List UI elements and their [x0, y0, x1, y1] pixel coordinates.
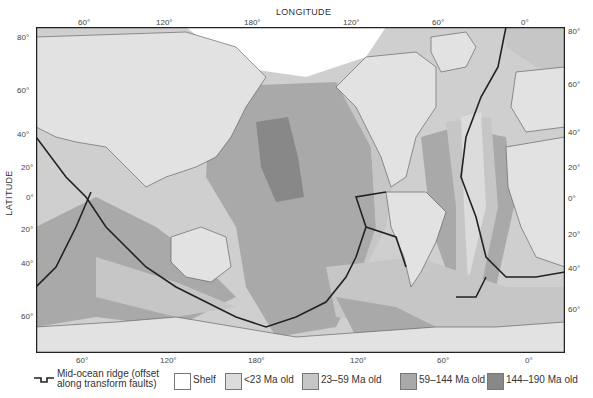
- age-23-59-swatch: [302, 373, 319, 390]
- right-tick: 60°: [568, 80, 580, 89]
- age-59-144-label: 59–144 Ma old: [419, 374, 485, 385]
- shelf-swatch: [174, 373, 191, 390]
- left-tick: 60°: [21, 312, 33, 321]
- age-144-190-swatch: [487, 373, 504, 390]
- top-tick: 60°: [432, 18, 444, 27]
- top-tick: 180°: [244, 18, 261, 27]
- left-tick: 80°: [17, 33, 29, 42]
- right-tick: 40°: [568, 264, 580, 273]
- right-tick: 0°: [568, 194, 576, 203]
- left-tick: 60°: [17, 86, 29, 95]
- age-23-59-label: 23–59 Ma old: [321, 374, 382, 385]
- bottom-tick: 120°: [350, 356, 367, 365]
- top-tick: 120°: [343, 18, 360, 27]
- top-tick: 0°: [521, 18, 529, 27]
- seafloor-age-map: [36, 27, 565, 353]
- ridge-legend-line2: along transform faults): [57, 379, 159, 389]
- left-tick: 20°: [21, 163, 33, 172]
- bottom-tick: 0°: [525, 356, 533, 365]
- age-59-144-swatch: [400, 373, 417, 390]
- ridge-symbol-icon: [34, 376, 54, 384]
- left-tick: 40°: [17, 130, 29, 139]
- ridge-legend-label: Mid-ocean ridge (offset along transform …: [57, 369, 159, 389]
- right-tick: 60°: [568, 305, 580, 314]
- top-tick: 120°: [156, 18, 173, 27]
- bottom-tick: 60°: [76, 356, 88, 365]
- longitude-axis-title: LONGITUDE: [276, 7, 331, 17]
- bottom-tick: 180°: [248, 356, 265, 365]
- top-tick: 60°: [78, 18, 90, 27]
- shelf-label: Shelf: [193, 374, 216, 385]
- bottom-tick: 60°: [437, 356, 449, 365]
- legend: Mid-ocean ridge (offset along transform …: [0, 370, 593, 396]
- latitude-axis-title: LATITUDE: [4, 170, 14, 215]
- left-tick: 0°: [26, 193, 34, 202]
- right-tick: 20°: [568, 230, 580, 239]
- right-tick: 80°: [568, 27, 580, 36]
- age-144-190-label: 144–190 Ma old: [506, 374, 578, 385]
- lt23-label: <23 Ma old: [244, 374, 294, 385]
- left-tick: 20°: [21, 225, 33, 234]
- left-tick: 40°: [21, 259, 33, 268]
- lt23-swatch: [225, 373, 242, 390]
- right-tick: 20°: [568, 163, 580, 172]
- bottom-tick: 120°: [160, 356, 177, 365]
- right-tick: 40°: [568, 128, 580, 137]
